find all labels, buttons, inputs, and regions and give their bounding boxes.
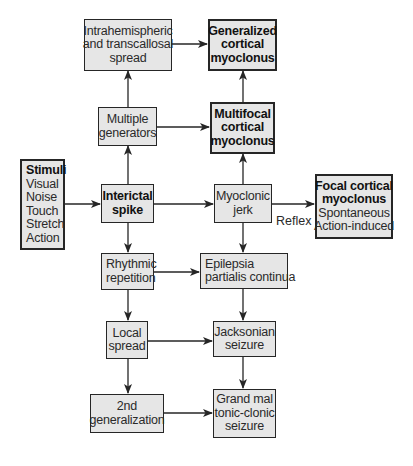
node-focal-cortical-myoclonus: Focal cortical myoclonus Spontaneous Act… xyxy=(315,174,393,239)
node-text: generalization xyxy=(89,414,164,428)
node-text: myoclonus xyxy=(210,135,274,149)
node-text: 2nd xyxy=(117,400,137,414)
node-text: Rhythmic xyxy=(106,258,157,272)
node-text: spread xyxy=(108,340,145,354)
node-text: Spontaneous xyxy=(318,207,389,221)
node-local-spread: Local spread xyxy=(106,321,148,359)
node-text: Action xyxy=(26,232,60,246)
node-text: Grand mal xyxy=(216,393,273,407)
node-text: Touch xyxy=(26,205,58,219)
node-text: and transcallosal xyxy=(83,38,173,52)
node-text: Interictal xyxy=(102,190,152,204)
node-text: Multiple xyxy=(107,113,148,127)
node-text: Myoclonic xyxy=(216,190,270,204)
node-text: Jacksonian xyxy=(214,326,275,340)
node-text: Multifocal xyxy=(214,108,270,122)
node-jacksonian-seizure: Jacksonian seizure xyxy=(213,321,276,357)
node-text: seizure xyxy=(225,420,264,434)
node-intrahemispheric-spread: Intrahemispheric and transcallosal sprea… xyxy=(84,19,172,71)
node-text: generators xyxy=(99,127,157,141)
node-text: partialis continua xyxy=(205,271,295,285)
node-text: cortical xyxy=(221,38,264,52)
node-rhythmic-repetition: Rhythmic repetition xyxy=(101,253,154,290)
node-generalized-cortical-myoclonus: Generalized cortical myoclonus xyxy=(208,19,277,71)
node-interictal-spike: Interictal spike xyxy=(101,184,154,223)
node-text: Stretch xyxy=(26,218,64,232)
node-text: Intrahemispheric xyxy=(83,25,172,39)
node-text: Local xyxy=(113,327,142,341)
node-text: spread xyxy=(109,52,146,66)
node-text: repetition xyxy=(106,272,155,286)
node-text: jerk xyxy=(233,204,252,218)
node-stimuli: Stimuli Visual Noise Touch Stretch Actio… xyxy=(20,159,65,250)
node-text: Generalized xyxy=(208,25,277,39)
node-epilepsia-partialis-continua: Epilepsia partialis continua xyxy=(200,253,288,289)
node-text: Noise xyxy=(26,191,57,205)
node-title: Stimuli xyxy=(26,164,66,178)
node-text: tonic-clonic xyxy=(214,407,274,421)
node-title: Focal cortical xyxy=(315,180,393,194)
node-text: Visual xyxy=(26,178,59,192)
node-grand-mal-tonic-clonic-seizure: Grand mal tonic-clonic seizure xyxy=(213,389,276,438)
node-text: myoclonus xyxy=(210,52,274,66)
node-multiple-generators: Multiple generators xyxy=(98,107,157,146)
node-text: seizure xyxy=(225,339,264,353)
node-multifocal-cortical-myoclonus: Multifocal cortical myoclonus xyxy=(210,102,275,154)
edge-label-reflex: Reflex xyxy=(276,214,311,228)
node-myoclonic-jerk: Myoclonic jerk xyxy=(214,184,272,223)
node-second-generalization: 2nd generalization xyxy=(90,394,164,433)
node-text: spike xyxy=(112,204,143,218)
node-text: Epilepsia xyxy=(205,258,254,272)
node-text: Action-induced xyxy=(314,220,394,234)
node-text: cortical xyxy=(221,121,264,135)
node-title: myoclonus xyxy=(322,193,386,207)
